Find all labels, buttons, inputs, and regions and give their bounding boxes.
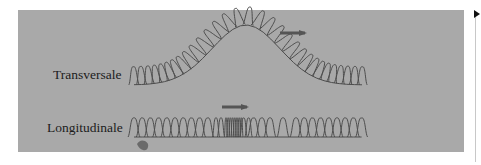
side-rule [475, 12, 476, 162]
hand-icon [137, 140, 148, 150]
transverse-spring [129, 7, 367, 85]
triangle-right-icon [474, 10, 480, 18]
longitudinal-spring [128, 118, 367, 137]
wave-illustration [0, 0, 481, 165]
